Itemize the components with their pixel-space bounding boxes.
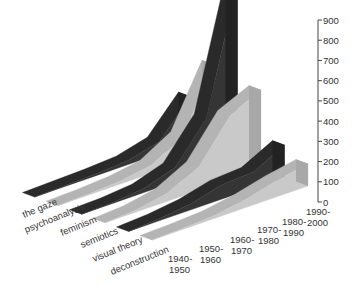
y-tick-label: 300: [323, 136, 339, 147]
ribbon-end-cap: [296, 159, 308, 186]
y-tick-label: 200: [323, 156, 339, 167]
ribbon-series-group: [23, 0, 309, 240]
period-label: 1990-2000: [306, 206, 330, 228]
y-tick-label: 100: [323, 176, 339, 187]
period-label: 1950-1960: [199, 243, 223, 265]
y-tick-label: 700: [323, 55, 339, 66]
y-tick-label: 800: [323, 35, 339, 46]
y-tick-label: 500: [323, 95, 339, 106]
ribbon-chart: 0100200300400500600700800900 the gazepsy…: [0, 0, 357, 296]
period-label: 1960-1970: [230, 234, 254, 256]
y-tick-label: 600: [323, 75, 339, 86]
y-axis: 0100200300400500600700800900: [318, 15, 339, 208]
period-label: 1980-1990: [282, 216, 306, 238]
y-tick-label: 400: [323, 116, 339, 127]
period-label: 1940-1950: [168, 253, 192, 275]
period-label: 1970-1980: [257, 224, 281, 246]
y-tick-label: 900: [323, 15, 339, 26]
